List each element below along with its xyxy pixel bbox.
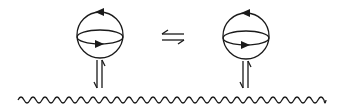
right-loop-equator — [223, 31, 269, 45]
right-loop-equator-arrow-icon — [241, 41, 250, 49]
left-loop-equator-arrow-icon — [95, 40, 104, 48]
left-loop-equator — [77, 30, 123, 44]
equilibrium-symbol-icon — [162, 30, 184, 44]
diagram-canvas — [0, 0, 346, 109]
left-loop — [77, 8, 123, 58]
right-loop-top-arrow-icon — [241, 9, 250, 17]
left-loop-top-arrow-icon — [95, 8, 104, 16]
right-loop-circle — [223, 13, 269, 59]
left-harpoons-icon — [94, 60, 105, 88]
left-loop-circle — [77, 12, 123, 58]
wavy-line — [18, 97, 326, 103]
right-harpoons-icon — [240, 61, 251, 88]
right-loop — [223, 9, 269, 59]
